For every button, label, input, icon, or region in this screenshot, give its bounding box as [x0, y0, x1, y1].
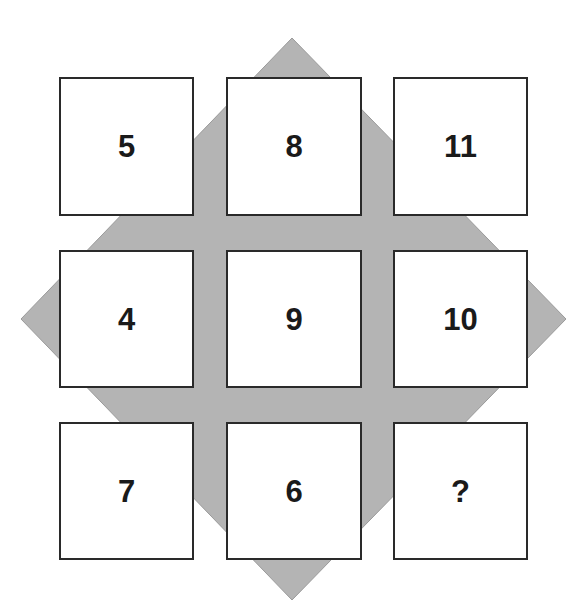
cell-value: 10 [443, 304, 477, 335]
cell-value: 9 [285, 304, 302, 335]
cell-value: 11 [444, 131, 477, 162]
grid-cell-r3c3-unknown: ? [393, 422, 528, 560]
cell-value: 8 [285, 131, 302, 162]
grid-cell-r1c2: 8 [226, 77, 362, 216]
grid-cell-r2c1: 4 [59, 250, 194, 388]
grid-cell-r3c1: 7 [59, 422, 194, 560]
cell-value: 5 [118, 131, 135, 162]
grid-cell-r1c3: 11 [393, 77, 528, 216]
cell-value: 4 [118, 304, 135, 335]
grid-cell-r2c2: 9 [226, 250, 362, 388]
grid-cell-r1c1: 5 [59, 77, 194, 216]
grid-cell-r2c3: 10 [393, 250, 528, 388]
cell-value: 7 [118, 476, 135, 507]
grid-cell-r3c2: 6 [226, 422, 362, 560]
cell-value: 6 [285, 476, 302, 507]
question-mark: ? [451, 476, 470, 507]
